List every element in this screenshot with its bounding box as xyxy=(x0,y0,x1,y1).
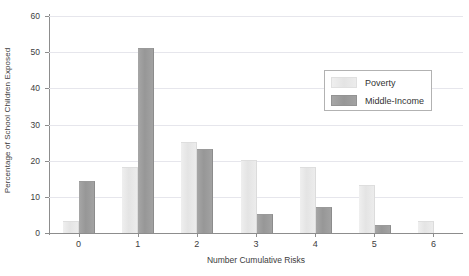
y-tick-label: 50 xyxy=(0,47,40,57)
legend-label-poverty: Poverty xyxy=(365,78,396,88)
y-tick-label: 10 xyxy=(0,192,40,202)
y-tick-label: 40 xyxy=(0,83,40,93)
y-tick-mark xyxy=(45,16,49,17)
x-tick-mark xyxy=(256,233,257,237)
y-tick-mark xyxy=(45,233,49,234)
legend-item-poverty: Poverty xyxy=(331,76,396,89)
x-tick-label: 2 xyxy=(182,239,212,249)
y-tick-label: 0 xyxy=(0,228,40,238)
bar-poverty-3 xyxy=(241,160,257,233)
y-tick-mark xyxy=(45,125,49,126)
bar-chart: Percentage of School Children Exposed 01… xyxy=(0,0,469,276)
bar-poverty-1 xyxy=(122,167,138,233)
y-tick-mark xyxy=(45,197,49,198)
bar-poverty-2 xyxy=(181,142,197,233)
bar-middle-income-0 xyxy=(79,181,95,233)
legend-swatch-middle-income xyxy=(331,95,357,106)
x-tick-label: 4 xyxy=(300,239,330,249)
x-tick-label: 1 xyxy=(123,239,153,249)
bar-poverty-5 xyxy=(359,185,375,233)
y-tick-label: 30 xyxy=(0,120,40,130)
bar-poverty-0 xyxy=(63,221,79,233)
x-tick-mark xyxy=(197,233,198,237)
x-tick-mark xyxy=(138,233,139,237)
x-tick-mark xyxy=(79,233,80,237)
gridline xyxy=(49,52,463,53)
gridline xyxy=(49,125,463,126)
x-tick-label: 3 xyxy=(241,239,271,249)
chart-legend: Poverty Middle-Income xyxy=(324,70,432,111)
bar-middle-income-1 xyxy=(138,48,154,233)
y-tick-mark xyxy=(45,161,49,162)
x-tick-mark xyxy=(374,233,375,237)
y-tick-label: 20 xyxy=(0,156,40,166)
bar-middle-income-3 xyxy=(257,214,273,233)
gridline xyxy=(49,16,463,17)
x-tick-mark xyxy=(315,233,316,237)
bar-middle-income-4 xyxy=(316,207,332,233)
bar-middle-income-2 xyxy=(197,149,213,233)
legend-item-middle-income: Middle-Income xyxy=(331,94,424,107)
x-tick-mark xyxy=(433,233,434,237)
y-tick-mark xyxy=(45,88,49,89)
x-tick-label: 0 xyxy=(64,239,94,249)
plot-area: 01020304050600123456 xyxy=(49,16,463,233)
bar-middle-income-5 xyxy=(375,225,391,233)
x-tick-label: 6 xyxy=(418,239,448,249)
legend-swatch-poverty xyxy=(331,77,357,88)
y-tick-label: 60 xyxy=(0,11,40,21)
bar-poverty-6 xyxy=(418,221,434,233)
bar-poverty-4 xyxy=(300,167,316,233)
y-tick-mark xyxy=(45,52,49,53)
x-tick-label: 5 xyxy=(359,239,389,249)
legend-label-middle-income: Middle-Income xyxy=(365,96,424,106)
x-axis-title: Number Cumulative Risks xyxy=(49,255,463,265)
